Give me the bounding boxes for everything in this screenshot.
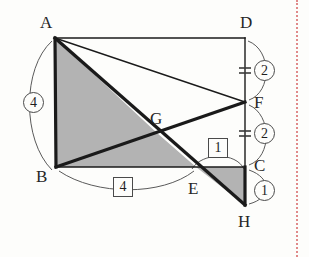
geometry-figure: A D F G C B E H 4 4 2 2 1 1 [0,0,309,257]
measure-badge-fc: 2 [254,123,275,144]
measure-badge-ab: 4 [23,92,44,113]
measure-badge-be: 4 [113,177,133,197]
vertex-label-G: G [150,110,162,127]
vertex-label-C: C [254,157,265,174]
vertex-label-F: F [254,94,263,111]
vertex-label-A: A [40,14,52,31]
vertex-label-B: B [36,168,47,185]
measure-badge-ch: 1 [254,180,275,201]
page-edge-dotted-line [296,0,298,257]
side-AB [55,38,56,167]
vertex-label-H: H [238,213,250,230]
vertex-label-D: D [240,14,252,31]
vertex-label-E: E [188,180,198,197]
measure-badge-ec: 1 [208,138,228,158]
measure-badge-df: 2 [254,60,275,81]
